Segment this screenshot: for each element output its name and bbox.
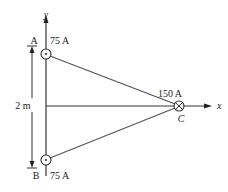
y-axis: [44, 15, 49, 176]
dimension-label: 2 m: [15, 100, 31, 111]
y-axis-label: y: [43, 9, 49, 20]
point-a-current: 75 A: [50, 35, 70, 46]
wire-line-b-c: [50, 108, 175, 158]
point-c-current: 150 A: [158, 88, 183, 99]
wire-a-out-of-page-icon: [41, 49, 51, 59]
point-b-label: B: [33, 170, 40, 181]
point-a-label: A: [30, 35, 38, 46]
wire-b-out-of-page-icon: [41, 155, 51, 165]
wire-c-into-page-icon: [174, 101, 184, 111]
wire-diagram: y x 2 m A 75 A B 75 A 150 A C: [0, 0, 228, 192]
x-axis-label: x: [216, 100, 222, 111]
point-b-current: 75 A: [50, 170, 70, 181]
wire-line-a-c: [50, 56, 175, 104]
x-axis: [46, 104, 212, 109]
point-c-label: C: [178, 113, 185, 124]
